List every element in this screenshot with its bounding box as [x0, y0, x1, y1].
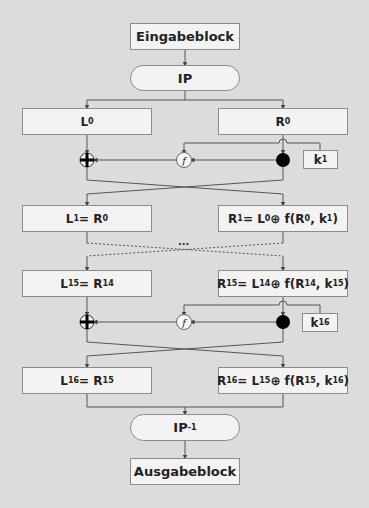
- branch-dot-icon: [276, 315, 290, 329]
- left-block-1: L1 = R0: [22, 205, 152, 232]
- right-block-0: R0: [218, 108, 348, 135]
- right-block-1: R1 = L0 ⊕ f(R0, k1): [218, 205, 348, 232]
- left-block-16: L16 = R15: [22, 367, 152, 394]
- final-permutation: IP-1: [130, 414, 240, 441]
- ellipsis: ...: [178, 236, 189, 247]
- xor-icon: [80, 153, 94, 167]
- left-block-0: L0: [22, 108, 152, 135]
- xor-icon: [80, 315, 94, 329]
- key-1: k1: [303, 150, 338, 169]
- function-f-icon: f: [177, 153, 192, 168]
- left-block-15: L15 = R14: [22, 270, 152, 297]
- right-block-15: R15 = L14 ⊕ f(R14, k15): [218, 270, 348, 297]
- output-block: Ausgabeblock: [130, 458, 240, 485]
- function-f-icon: f: [177, 315, 192, 330]
- input-block: Eingabeblock: [130, 23, 240, 50]
- branch-dot-icon: [276, 153, 290, 167]
- initial-permutation: IP: [130, 65, 240, 91]
- right-block-16: R16 = L15 ⊕ f(R15, k16): [218, 367, 348, 394]
- key-16: k16: [302, 313, 338, 332]
